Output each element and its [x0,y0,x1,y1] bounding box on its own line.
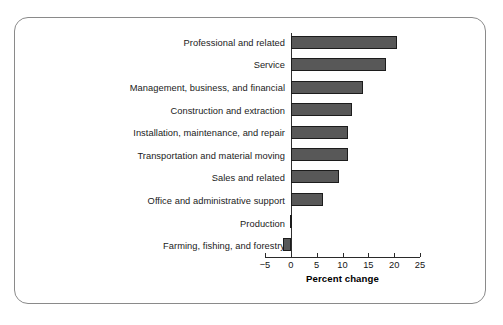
bar [291,81,363,94]
category-label: Production [30,219,285,229]
x-tick [265,253,266,257]
x-tick [394,253,395,257]
bar [291,170,340,183]
category-label: Professional and related [30,38,285,48]
x-tick-label: 10 [332,260,354,270]
category-label: Office and administrative support [30,196,285,206]
bar [291,103,352,116]
x-tick [343,253,344,257]
category-label: Sales and related [30,173,285,183]
bar [291,148,348,161]
x-axis-line [265,257,420,258]
category-label: Service [30,60,285,70]
category-label: Management, business, and financial [30,83,285,93]
x-axis: −50510152025 Percent change [265,257,425,297]
x-tick-label: 5 [306,260,328,270]
x-tick-label: 20 [383,260,405,270]
x-tick-label: −5 [254,260,276,270]
bar [291,36,397,49]
bar [291,193,323,206]
plot-region [265,33,420,257]
x-tick [420,253,421,257]
x-axis-title: Percent change [265,273,420,284]
x-tick-label: 25 [409,260,431,270]
category-label-column: Professional and related Service Managem… [30,0,285,260]
category-label: Installation, maintenance, and repair [30,128,285,138]
bar [291,126,348,139]
x-tick [317,253,318,257]
x-tick-label: 0 [280,260,302,270]
category-label: Construction and extraction [30,106,285,116]
x-tick [291,253,292,257]
category-label: Farming, fishing, and forestry [30,241,285,251]
bar-chart: Professional and related Service Managem… [0,0,503,325]
x-tick [368,253,369,257]
bar [291,58,386,71]
bar [283,238,291,251]
x-tick-label: 15 [357,260,379,270]
bar [290,215,292,228]
category-label: Transportation and material moving [30,151,285,161]
